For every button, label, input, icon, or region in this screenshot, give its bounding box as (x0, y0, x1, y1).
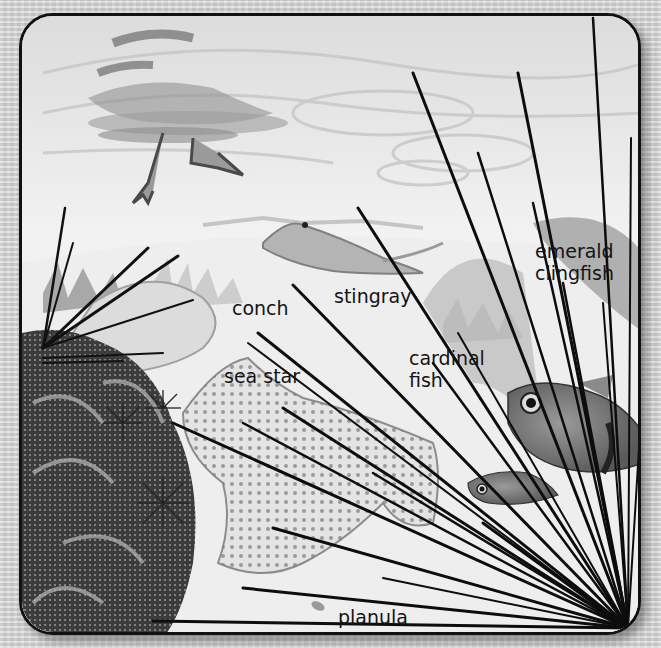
label-conch: conch (232, 297, 289, 319)
label-stingray: stingray (334, 285, 411, 307)
label-sea-star: sea star (224, 365, 300, 387)
illustration-canvas: conch stingray sea star cardinal fish em… (0, 0, 661, 648)
label-cardinal-fish: cardinal fish (409, 347, 485, 391)
reef-scene (22, 16, 641, 635)
label-planula: planula (338, 606, 408, 628)
rounded-frame (19, 13, 641, 635)
label-emerald-clingfish: emerald clingfish (535, 240, 614, 284)
